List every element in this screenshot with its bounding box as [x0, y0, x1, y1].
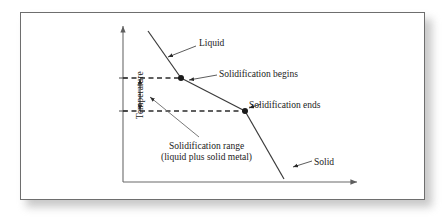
leader-solid [293, 161, 312, 167]
figure-frame: Liquid Solidification begins Solidificat… [20, 12, 425, 200]
marker-solidification-ends [242, 108, 248, 114]
label-liquid: Liquid [199, 38, 224, 49]
curve-solidification-segment [181, 78, 245, 111]
figure-plot-area: Liquid Solidification begins Solidificat… [21, 13, 424, 199]
leader-liquid [168, 46, 196, 57]
label-solidification-range: Solidification range (liquid plus solid … [161, 141, 252, 162]
label-solidification-range-line1: Solidification range [161, 141, 252, 152]
label-solidification-begins: Solidification begins [219, 69, 298, 80]
x-axis-label: Time [228, 198, 248, 199]
y-axis-label: Temperature [135, 71, 146, 119]
label-solidification-ends: Solidification ends [249, 100, 321, 111]
label-solid: Solid [314, 157, 334, 168]
figure-container: Liquid Solidification begins Solidificat… [0, 0, 444, 218]
marker-solidification-begins [178, 75, 184, 81]
leader-solidification-range [150, 97, 199, 137]
label-solidification-range-line2: (liquid plus solid metal) [161, 152, 252, 163]
leader-solidification-begins [189, 75, 217, 80]
curve-liquid-segment [148, 31, 181, 78]
